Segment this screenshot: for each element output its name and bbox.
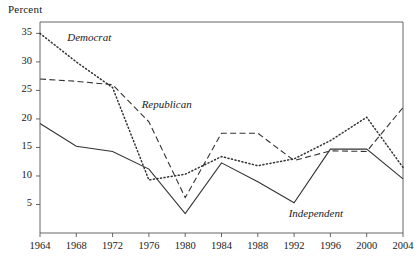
y-tick-label-30: 30 [6,55,32,66]
x-tick-label-1996: 1996 [310,240,350,251]
x-tick-label-1992: 1992 [274,240,314,251]
series-label-independent: Independent [289,207,343,219]
plot-frame [40,22,403,233]
y-tick-label-10: 10 [6,169,32,180]
x-tick-label-1972: 1972 [93,240,133,251]
y-tick-label-35: 35 [6,26,32,37]
plot-area [0,0,420,275]
y-tick-label-25: 25 [6,83,32,94]
series-line-independent [40,124,403,214]
x-tick-label-2000: 2000 [347,240,387,251]
y-tick-label-5: 5 [6,197,32,208]
x-tick-label-1984: 1984 [202,240,242,251]
x-tick-label-2004: 2004 [383,240,420,251]
line-chart: Percent 51015202530351964196819721976198… [0,0,420,275]
series-line-republican [40,79,403,198]
x-tick-label-1976: 1976 [129,240,169,251]
x-tick-label-1980: 1980 [165,240,205,251]
y-tick-label-20: 20 [6,112,32,123]
series-label-democrat: Democrat [67,31,111,43]
y-tick-label-15: 15 [6,140,32,151]
series-line-democrat [40,33,403,180]
x-tick-label-1988: 1988 [238,240,278,251]
series-label-republican: Republican [142,98,192,110]
x-tick-label-1964: 1964 [20,240,60,251]
x-tick-label-1968: 1968 [56,240,96,251]
